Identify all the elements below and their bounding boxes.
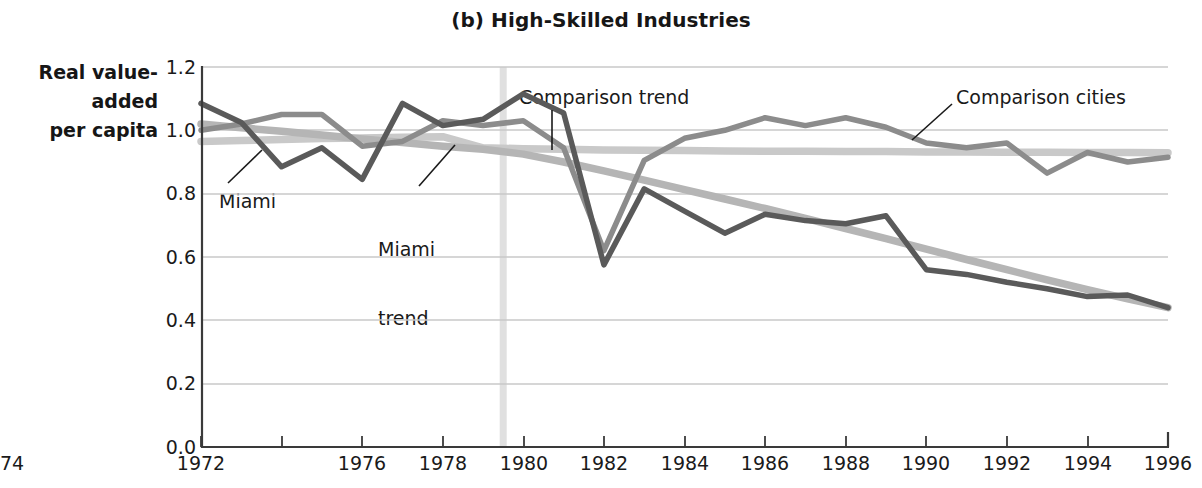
x-axis-ticks xyxy=(201,436,1168,447)
leader-line-miami xyxy=(228,150,262,183)
series-line-comparison-cities xyxy=(201,115,1168,251)
leader-line-comparison-cities xyxy=(912,104,952,140)
gridlines xyxy=(201,67,1168,384)
plot-area xyxy=(0,0,1202,488)
leader-line-miami-trend xyxy=(419,145,455,186)
data-series-group xyxy=(201,94,1168,308)
chart-figure: (b) High-Skilled Industries Real value- … xyxy=(0,0,1202,488)
